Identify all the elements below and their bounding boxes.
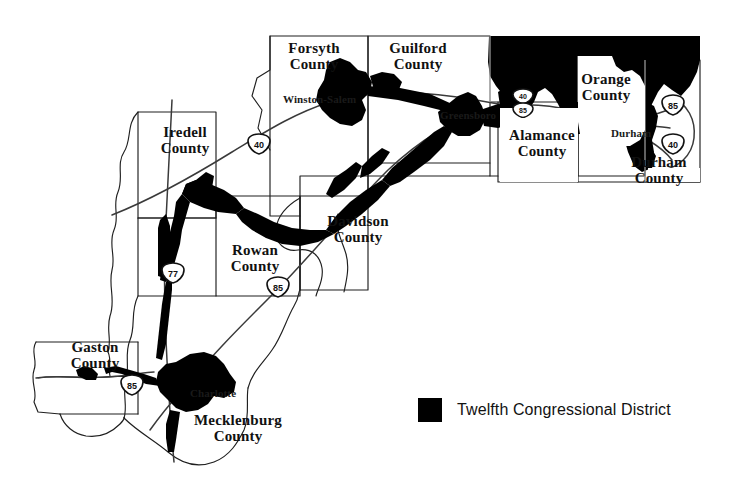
county-label-durham: Durham County [619, 155, 699, 187]
county-label-iredell: Iredell County [148, 125, 222, 157]
county-label-alamance: Alamance County [503, 128, 581, 160]
interstate-shield-i-40-durham: 40 [660, 133, 686, 155]
city-label-winston-salem: Winston-Salem [283, 93, 356, 105]
legend-label-district: Twelfth Congressional District [457, 401, 671, 419]
city-label-charlotte: Charlotte [190, 387, 236, 399]
shield-number-40: 40 [519, 93, 527, 100]
shield-number-85: 85 [273, 283, 283, 293]
shield-number-77: 77 [168, 269, 178, 279]
shield-number-85: 85 [668, 101, 678, 111]
map-legend: Twelfth Congressional District [418, 398, 671, 422]
interstate-shield-i-40-85-alamance: 40 85 [511, 88, 535, 118]
county-label-orange: Orange County [568, 72, 644, 104]
county-label-forsyth: Forsyth County [277, 41, 351, 73]
interstate-shield-i-85-durham: 85 [660, 94, 686, 116]
map-canvas: Iredell County Forsyth County Guilford C… [0, 0, 731, 496]
interstate-shield-i-40-forsyth: 40 [246, 133, 272, 155]
shield-number-85: 85 [519, 107, 527, 114]
city-label-greensboro: Greensboro [440, 109, 496, 121]
city-label-durham: Durham [611, 127, 651, 139]
shield-number-40: 40 [254, 140, 264, 150]
legend-swatch-district [418, 398, 442, 422]
county-label-guilford: Guilford County [378, 41, 458, 73]
interstate-shield-i-77-rowan: 77 [160, 262, 186, 284]
interstate-shield-i-85-rowan: 85 [265, 276, 291, 298]
county-label-gaston: Gaston County [58, 340, 132, 372]
county-label-mecklenburg: Mecklenburg County [188, 413, 288, 445]
county-label-davidson: Davidson County [317, 214, 399, 246]
interstate-shield-i-85-gaston: 85 [119, 374, 145, 396]
shield-number-40: 40 [668, 140, 678, 150]
county-label-rowan: Rowan County [218, 243, 292, 275]
shield-number-85: 85 [127, 381, 137, 391]
